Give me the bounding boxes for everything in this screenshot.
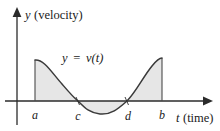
x-axis-label: t(time) <box>176 111 214 125</box>
curve-label: y=v(t) <box>60 51 103 65</box>
curve-label-equals: = <box>73 51 81 65</box>
tick-label-b: b <box>159 108 165 122</box>
curve-label-v: v(t) <box>86 51 103 65</box>
y-axis-label: y(velocity) <box>23 8 83 22</box>
velocity-graph-figure: y(velocity) t(time) y=v(t) a c d b <box>0 0 220 131</box>
y-axis-label-variable: y <box>23 8 31 22</box>
y-axis-arrow-icon <box>13 7 22 17</box>
tick-label-d: d <box>125 109 132 123</box>
tick-label-c: c <box>75 109 81 123</box>
tick-label-a: a <box>32 108 38 122</box>
y-axis-label-paren: (velocity) <box>34 8 83 22</box>
curve-label-y: y <box>60 51 68 65</box>
x-axis-label-variable: t <box>176 111 180 125</box>
x-axis-label-paren: (time) <box>183 111 214 125</box>
x-axis-arrow-icon <box>203 97 213 106</box>
